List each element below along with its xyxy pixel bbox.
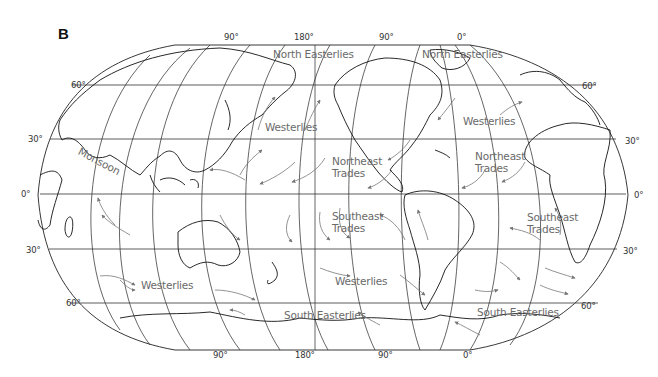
label-northeast-trades-atlantic: Northeast Trades — [475, 150, 525, 174]
label-north-easterlies-pacific: North Easterlies — [273, 48, 354, 60]
panel-label: B — [58, 25, 69, 42]
map-outline — [38, 45, 628, 350]
lon-tick-top-90e: 90° — [224, 32, 238, 42]
lat-tick-left-30n: 30° — [28, 134, 42, 144]
lat-tick-right-0: 0° — [634, 190, 643, 200]
lon-tick-bottom-90e: 90° — [213, 350, 227, 360]
lat-tick-right-30n: 30° — [625, 136, 639, 146]
label-westerlies-north-pacific: Westerlies — [265, 121, 317, 133]
label-westerlies-south-indian: Westerlies — [141, 279, 193, 291]
lon-tick-top-0: 0° — [457, 32, 466, 42]
label-northeast-trades-pacific: Northeast Trades — [332, 155, 382, 179]
lat-tick-right-30s: 30° — [623, 246, 637, 256]
lat-tick-left-30s: 30° — [26, 245, 40, 255]
latitude-lines — [40, 85, 626, 303]
meridians — [91, 45, 541, 350]
label-southeast-trades-atlantic: Southeast Trades — [527, 211, 578, 235]
label-north-easterlies-atlantic: North Easterlies — [422, 48, 503, 60]
lat-tick-left-60n: 60° — [71, 80, 85, 90]
lon-tick-top-180: 180° — [294, 32, 314, 42]
lat-tick-right-60s: 60° — [581, 301, 595, 311]
label-southeast-trades-pacific: Southeast Trades — [332, 210, 383, 234]
label-westerlies-north-atlantic: Westerlies — [463, 115, 515, 127]
lat-tick-right-60n: 60° — [582, 81, 596, 91]
lat-tick-left-0: 0° — [21, 189, 30, 199]
label-south-easterlies-pacific: South Easterlies — [284, 309, 366, 321]
label-south-easterlies-atlantic: South Easterlies — [477, 306, 559, 318]
label-westerlies-south-pacific: Westerlies — [335, 275, 387, 287]
lon-tick-top-90w: 90° — [379, 32, 393, 42]
lat-tick-left-60s: 60° — [66, 298, 80, 308]
lon-tick-bottom-90w: 90° — [378, 350, 392, 360]
lon-tick-bottom-0: 0° — [463, 350, 472, 360]
lon-tick-bottom-180: 180° — [295, 350, 315, 360]
